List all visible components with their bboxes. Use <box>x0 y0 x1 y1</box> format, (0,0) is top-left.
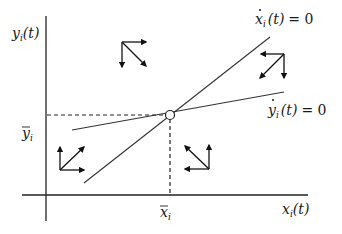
x-axis-label: xi(t) <box>282 201 309 219</box>
equilibrium-point <box>166 111 175 120</box>
svg-text:yi(t)= 0: yi(t)= 0 <box>267 102 326 120</box>
x-dot-nullcline-label: xi(t)= 0 <box>255 9 313 29</box>
arrow-cluster-lower-right <box>185 145 209 169</box>
y-dot-nullcline-label: yi(t)= 0 <box>267 99 326 120</box>
arrow-cluster-lower-left <box>60 147 84 170</box>
arrow-down-right-icon <box>122 42 146 66</box>
x-dot-nullcline-line <box>84 37 270 183</box>
svg-text:xi(t)= 0: xi(t)= 0 <box>255 11 313 29</box>
arrow-down-left-icon <box>260 54 284 78</box>
svg-text:yi: yi <box>21 125 33 143</box>
arrow-cluster-upper-right <box>260 54 284 78</box>
arrow-cluster-upper-left <box>122 42 146 67</box>
x-bar-label: xi <box>160 204 171 222</box>
arrow-up-right-icon <box>60 147 84 170</box>
phase-diagram: yi(t) xi(t) yi xi xi(t)= 0 yi(t)= 0 <box>0 0 342 234</box>
arrow-up-left-icon <box>185 146 209 169</box>
y-bar-label: yi <box>21 125 33 143</box>
y-axis-label: yi(t) <box>11 25 39 43</box>
svg-text:xi: xi <box>160 204 171 222</box>
y-dot-nullcline-line <box>72 92 284 130</box>
